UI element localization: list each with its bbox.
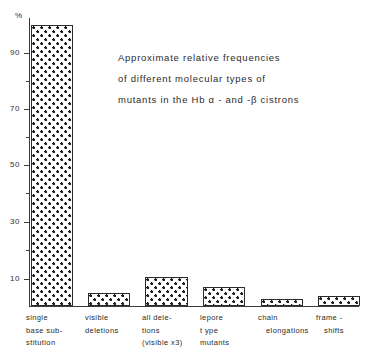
x-label-frame-shifts: frame - shifts (316, 312, 344, 337)
x-label-line: (visible x3) (142, 337, 183, 350)
x-label-line: tions (142, 325, 183, 338)
y-axis-unit-label: % (15, 11, 23, 20)
x-label-line: shifts (316, 325, 344, 338)
x-label-lepore-type-mutants: lepore t ype mutants (200, 312, 229, 350)
bar-frame-shifts (318, 296, 360, 306)
x-label-all-deletions: all dele- tions (visible x3) (142, 312, 183, 350)
y-tick-10 (24, 279, 30, 280)
x-label-line: mutants (200, 337, 229, 350)
x-label-line: visible (85, 312, 119, 325)
chart-title-line-2: of different molecular types of (118, 68, 368, 89)
x-label-visible-deletions: visible deletions (85, 312, 119, 337)
bar-all-deletions (145, 277, 188, 306)
chart-page: % 90 70 50 30 10 Approximate relative fr… (0, 0, 372, 362)
y-tick-label-30: 30 (10, 217, 20, 226)
x-label-chain-elongations: chain elongations (258, 312, 309, 337)
x-label-single-base-substitution: single base sub- stitution (26, 312, 63, 350)
chart-title: Approximate relative frequencies of diff… (118, 47, 368, 110)
x-axis-line (29, 306, 359, 307)
y-tick-label-50: 50 (10, 160, 20, 169)
x-label-line: elongations (258, 325, 309, 338)
bar-chain-elongations (261, 299, 303, 306)
chart-title-line-1: Approximate relative frequencies (118, 47, 368, 68)
bar-visible-deletions (88, 293, 130, 306)
x-label-line: deletions (85, 325, 119, 338)
bar-single-base-substitution (31, 25, 73, 306)
chart-title-line-3: mutants in the Hb α - and -β cistrons (118, 89, 368, 110)
x-label-line: all dele- (142, 312, 183, 325)
x-label-line: frame - (316, 312, 344, 325)
x-label-line: single (26, 312, 63, 325)
y-tick-70 (24, 109, 30, 110)
x-label-line: lepore (200, 312, 229, 325)
y-tick-minor-60 (26, 137, 30, 138)
y-tick-minor-80 (26, 81, 30, 82)
y-tick-minor-40 (26, 193, 30, 194)
y-tick-minor-20 (26, 250, 30, 251)
bar-lepore-type-mutants (203, 287, 245, 306)
y-axis-line (29, 18, 30, 307)
y-tick-90 (24, 53, 30, 54)
bar-chart-plot-area: % 90 70 50 30 10 Approximate relative fr… (0, 0, 372, 362)
y-tick-50 (24, 165, 30, 166)
y-tick-label-90: 90 (10, 48, 20, 57)
x-label-line: t ype (200, 325, 229, 338)
x-label-line: stitution (26, 337, 63, 350)
y-tick-label-10: 10 (10, 274, 20, 283)
y-tick-label-70: 70 (10, 104, 20, 113)
x-label-line: chain (258, 312, 309, 325)
y-tick-30 (24, 222, 30, 223)
x-label-line: base sub- (26, 325, 63, 338)
